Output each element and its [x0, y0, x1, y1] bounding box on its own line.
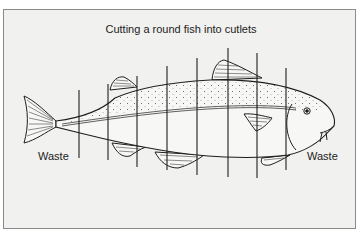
waste-label-left: Waste [38, 150, 69, 162]
waste-label-right: Waste [307, 150, 338, 162]
tail-fin-icon [24, 96, 56, 143]
fish-illustration [0, 0, 362, 240]
